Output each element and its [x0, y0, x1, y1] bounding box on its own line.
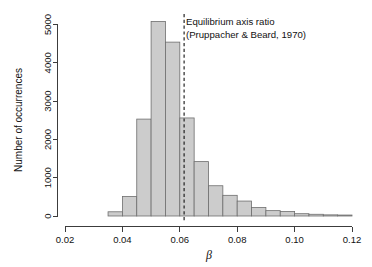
histogram-bar-2 [137, 119, 151, 216]
y-tick-label-4: 4000 [42, 52, 53, 73]
plot-canvas: 010002000300040005000 0.020.040.060.080.… [0, 0, 372, 267]
histogram-bar-6 [194, 162, 208, 216]
histogram-bar-9 [237, 201, 251, 216]
histogram-figure: 010002000300040005000 0.020.040.060.080.… [0, 0, 372, 267]
annotation-line-2: (Pruppacher & Beard, 1970) [186, 29, 306, 40]
x-tick-label-1: 0.04 [113, 234, 132, 245]
y-tick-label-2: 2000 [42, 129, 53, 150]
histogram-bar-4 [165, 42, 179, 216]
x-tick-label-4: 0.10 [285, 234, 304, 245]
x-tick-label-3: 0.08 [228, 234, 247, 245]
histogram-bar-10 [252, 208, 266, 216]
histogram-bar-11 [266, 211, 280, 216]
x-tick-label-5: 0.12 [343, 234, 362, 245]
histogram-bar-7 [209, 186, 223, 216]
histogram-bar-15 [323, 215, 337, 216]
x-tick-label-0: 0.02 [56, 234, 75, 245]
x-tick-label-2: 0.06 [171, 234, 190, 245]
histogram-bar-5 [180, 118, 194, 216]
y-tick-label-5: 5000 [42, 14, 53, 35]
histogram-bar-8 [223, 195, 237, 216]
histogram-bar-0 [108, 212, 122, 216]
y-tick-label-0: 0 [42, 213, 53, 218]
histogram-bar-3 [151, 21, 165, 216]
y-tick-label-3: 3000 [42, 91, 53, 112]
histogram-bar-14 [309, 214, 323, 216]
y-tick-label-1: 1000 [42, 167, 53, 188]
histogram-bar-13 [295, 214, 309, 216]
x-axis-title: β [205, 248, 212, 262]
histogram-bar-1 [122, 196, 136, 216]
histogram-bar-16 [338, 215, 352, 216]
histogram-bar-12 [280, 211, 294, 216]
annotation-line-1: Equilibrium axis ratio [186, 16, 275, 27]
y-axis-title: Number of occurrences [13, 68, 24, 172]
